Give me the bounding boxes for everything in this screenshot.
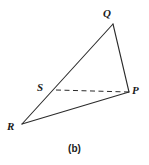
figure-canvas [0, 0, 149, 165]
edge-Q-P [113, 24, 129, 92]
edge-R-P [22, 92, 129, 124]
vertex-label-q: Q [103, 8, 111, 19]
edge-R-Q [22, 24, 113, 124]
vertex-label-s: S [37, 82, 43, 93]
geometric-figure: Q P S R (b) [0, 0, 149, 165]
vertex-label-r: R [7, 121, 14, 132]
vertex-label-p: P [132, 85, 139, 96]
figure-caption: (b) [0, 143, 149, 155]
edge-S-P-dashed [56, 90, 129, 92]
